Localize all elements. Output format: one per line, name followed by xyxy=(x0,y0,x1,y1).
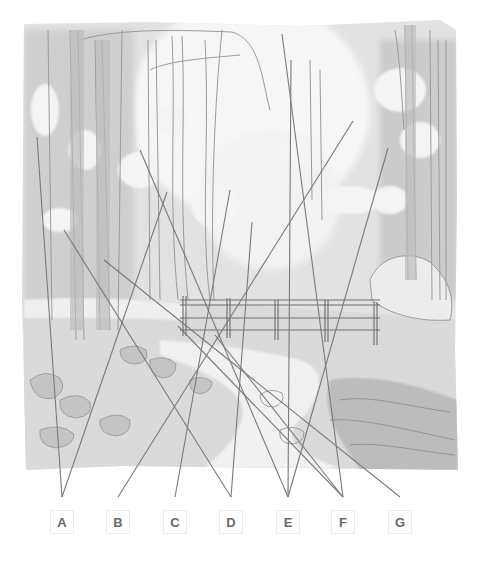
labeled-illustration: ABCDEFG xyxy=(0,0,482,572)
label-box-g: G xyxy=(388,510,412,534)
label-box-e: E xyxy=(276,510,300,534)
sketch-image xyxy=(20,0,462,474)
label-box-b: B xyxy=(106,510,130,534)
label-box-a: A xyxy=(50,510,74,534)
label-box-c: C xyxy=(163,510,187,534)
label-box-f: F xyxy=(331,510,355,534)
label-box-d: D xyxy=(219,510,243,534)
forest-bridge-sketch xyxy=(0,0,482,572)
